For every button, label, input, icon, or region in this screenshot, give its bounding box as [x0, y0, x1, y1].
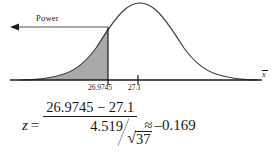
- fraction-denominator: 4.519 √ 37: [87, 117, 93, 148]
- denominator-sqrt: √ 37: [127, 131, 151, 147]
- radicand-value: 37: [135, 131, 152, 147]
- formula-equals-sign: =: [31, 117, 43, 134]
- tick-label-mean: 27.1: [128, 83, 141, 92]
- formula-variable: z: [22, 117, 31, 134]
- formula-fraction: 26.9745 − 27.1 4.519 √ 37: [43, 99, 137, 148]
- power-label: Power: [36, 13, 59, 23]
- z-score-formula: z = 26.9745 − 27.1 4.519 √ 37 ≈ –0.169: [22, 101, 196, 150]
- tick-label-critical-value: 26.9745: [88, 83, 112, 92]
- shaded-power-region: [20, 27, 108, 80]
- fraction-numerator: 26.9745 − 27.1: [43, 99, 137, 116]
- denominator-value: 4.519: [90, 118, 123, 134]
- axis-variable-xbar: x: [262, 70, 268, 78]
- axis-variable-symbol: x: [262, 71, 268, 78]
- formula-result: –0.169: [154, 117, 195, 134]
- power-arrow-head: [10, 24, 19, 31]
- figure-canvas: Power 26.9745 27.1 x z = 26.9745 − 27.1 …: [0, 0, 279, 159]
